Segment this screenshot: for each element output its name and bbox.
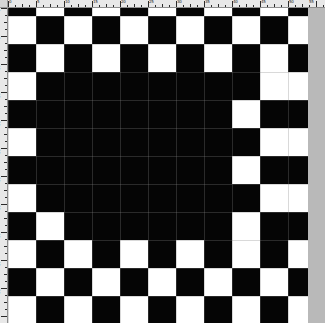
- canvas-cell[interactable]: [36, 72, 64, 100]
- canvas-cell[interactable]: [176, 156, 204, 184]
- canvas-cell[interactable]: [148, 240, 176, 268]
- canvas-cell[interactable]: [8, 100, 36, 128]
- canvas-cell[interactable]: [64, 184, 92, 212]
- canvas-cell[interactable]: [288, 296, 308, 323]
- canvas-cell[interactable]: [120, 44, 148, 72]
- canvas-cell[interactable]: [288, 240, 308, 268]
- canvas-cell[interactable]: [92, 240, 120, 268]
- canvas-cell[interactable]: [92, 16, 120, 44]
- canvas-cell[interactable]: [260, 156, 288, 184]
- canvas-cell[interactable]: [288, 16, 308, 44]
- canvas-cell[interactable]: [232, 184, 260, 212]
- canvas-cell[interactable]: [288, 156, 308, 184]
- canvas-cell[interactable]: [8, 184, 36, 212]
- canvas-cell[interactable]: [64, 44, 92, 72]
- canvas-cell[interactable]: [120, 128, 148, 156]
- canvas-cell[interactable]: [232, 72, 260, 100]
- vertical-ruler[interactable]: 05101520253035404550: [0, 8, 8, 323]
- canvas-cell[interactable]: [92, 128, 120, 156]
- canvas-cell[interactable]: [8, 72, 36, 100]
- canvas-cell[interactable]: [120, 156, 148, 184]
- canvas-cell[interactable]: [120, 296, 148, 323]
- canvas-viewport[interactable]: [8, 8, 325, 323]
- canvas-cell[interactable]: [8, 44, 36, 72]
- canvas-cell[interactable]: [204, 184, 232, 212]
- canvas-cell[interactable]: [92, 72, 120, 100]
- canvas-cell[interactable]: [148, 44, 176, 72]
- canvas-cell[interactable]: [92, 44, 120, 72]
- canvas-cell[interactable]: [8, 212, 36, 240]
- canvas-cell[interactable]: [36, 100, 64, 128]
- canvas-cell[interactable]: [288, 128, 308, 156]
- canvas-cell[interactable]: [204, 296, 232, 323]
- canvas-cell[interactable]: [176, 268, 204, 296]
- canvas-cell[interactable]: [288, 268, 308, 296]
- canvas-cell[interactable]: [232, 100, 260, 128]
- canvas-cell[interactable]: [232, 128, 260, 156]
- canvas-cell[interactable]: [64, 100, 92, 128]
- canvas-cell[interactable]: [260, 184, 288, 212]
- canvas-cell[interactable]: [92, 156, 120, 184]
- canvas-cell[interactable]: [36, 44, 64, 72]
- canvas-cell[interactable]: [8, 128, 36, 156]
- canvas-cell[interactable]: [120, 184, 148, 212]
- canvas-cell[interactable]: [36, 240, 64, 268]
- canvas-cell[interactable]: [176, 100, 204, 128]
- canvas-cell[interactable]: [148, 128, 176, 156]
- canvas-cell[interactable]: [232, 296, 260, 323]
- canvas-cell[interactable]: [148, 100, 176, 128]
- canvas-cell[interactable]: [260, 44, 288, 72]
- canvas-cell[interactable]: [8, 240, 36, 268]
- canvas-cell[interactable]: [8, 8, 36, 16]
- canvas-cell[interactable]: [260, 72, 288, 100]
- canvas-cell[interactable]: [204, 100, 232, 128]
- canvas-cell[interactable]: [288, 8, 308, 16]
- canvas-cell[interactable]: [148, 72, 176, 100]
- canvas-cell[interactable]: [120, 240, 148, 268]
- canvas-cell[interactable]: [36, 16, 64, 44]
- canvas-cell[interactable]: [288, 212, 308, 240]
- canvas-cell[interactable]: [204, 212, 232, 240]
- canvas-cell[interactable]: [288, 72, 308, 100]
- canvas-cell[interactable]: [260, 16, 288, 44]
- canvas-cell[interactable]: [64, 240, 92, 268]
- canvas-cell[interactable]: [148, 156, 176, 184]
- ruler-corner-box[interactable]: [0, 0, 8, 8]
- canvas-cell[interactable]: [64, 296, 92, 323]
- canvas-cell[interactable]: [120, 268, 148, 296]
- canvas-cell[interactable]: [120, 212, 148, 240]
- canvas-cell[interactable]: [36, 212, 64, 240]
- canvas-cell[interactable]: [148, 296, 176, 323]
- canvas-cell[interactable]: [204, 44, 232, 72]
- canvas-cell[interactable]: [36, 8, 64, 16]
- canvas-cell[interactable]: [92, 100, 120, 128]
- canvas-cell[interactable]: [260, 212, 288, 240]
- canvas-cell[interactable]: [120, 8, 148, 16]
- canvas-cell[interactable]: [64, 72, 92, 100]
- canvas-cell[interactable]: [176, 296, 204, 323]
- canvas-cell[interactable]: [8, 296, 36, 323]
- canvas-cell[interactable]: [288, 184, 308, 212]
- canvas-cell[interactable]: [260, 268, 288, 296]
- canvas-cell[interactable]: [148, 8, 176, 16]
- canvas-cell[interactable]: [8, 16, 36, 44]
- canvas-cell[interactable]: [36, 184, 64, 212]
- canvas-cell[interactable]: [92, 296, 120, 323]
- canvas-cell[interactable]: [36, 156, 64, 184]
- canvas-cell[interactable]: [176, 128, 204, 156]
- canvas-cell[interactable]: [8, 268, 36, 296]
- canvas-cell[interactable]: [204, 128, 232, 156]
- canvas-cell[interactable]: [120, 100, 148, 128]
- canvas-cell[interactable]: [148, 212, 176, 240]
- canvas-cell[interactable]: [8, 156, 36, 184]
- canvas-cell[interactable]: [232, 156, 260, 184]
- canvas-cell[interactable]: [260, 100, 288, 128]
- canvas-cell[interactable]: [204, 8, 232, 16]
- horizontal-ruler[interactable]: 0510152025303540455055: [8, 0, 325, 8]
- canvas-cell[interactable]: [260, 128, 288, 156]
- canvas-cell[interactable]: [92, 184, 120, 212]
- canvas-cell[interactable]: [120, 72, 148, 100]
- canvas-cell[interactable]: [176, 16, 204, 44]
- drawing-canvas[interactable]: [8, 8, 308, 323]
- canvas-cell[interactable]: [148, 16, 176, 44]
